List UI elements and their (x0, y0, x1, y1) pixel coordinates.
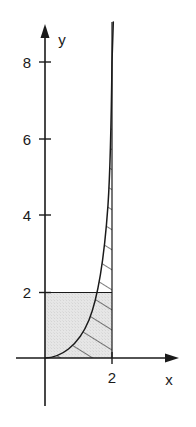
y-tick-label-8: 8 (23, 54, 31, 71)
y-tick-label-4: 4 (23, 207, 31, 224)
x-axis-label: x (165, 371, 173, 388)
x-tick-label-2: 2 (108, 369, 116, 386)
y-tick-label-2: 2 (23, 284, 31, 301)
plot-svg: 8 6 4 2 2 y x (0, 0, 196, 427)
y-axis-label: y (58, 31, 66, 48)
figure-container: 8 6 4 2 2 y x (0, 0, 196, 427)
y-tick-label-6: 6 (23, 131, 31, 148)
